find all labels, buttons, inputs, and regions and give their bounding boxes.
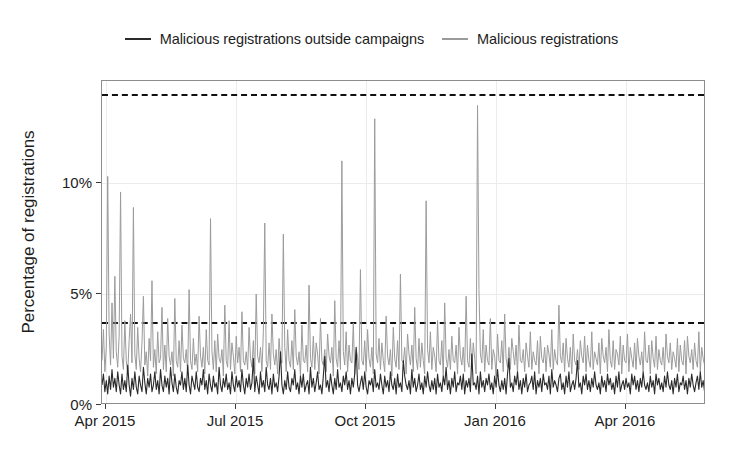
y-axis-title: Percentage of registrations [14,0,44,464]
x-tick-label-oct-2015: Oct 2015 [335,412,396,429]
x-tick-mark-0 [105,404,106,409]
y-tick-mark-0% [96,404,101,405]
series-line-malicious-registrations [102,105,705,376]
chart-legend: Malicious registrations outside campaign… [0,28,741,50]
legend-key-outside-campaigns [123,28,153,50]
legend-key-malicious-registrations [440,28,470,50]
series-plot-area [102,81,705,404]
x-tick-mark-4 [625,404,626,409]
y-tick-label-5%: 5% [40,285,92,302]
x-tick-label-jul-2015: Jul 2015 [207,412,264,429]
legend-label-outside-campaigns: Malicious registrations outside campaign… [160,31,424,47]
y-tick-label-10%: 10% [40,174,92,191]
x-tick-mark-2 [365,404,366,409]
x-tick-label-apr-2015: Apr 2015 [75,412,136,429]
legend-entry-malicious-registrations: Malicious registrations [440,28,618,50]
legend-label-malicious-registrations: Malicious registrations [477,31,618,47]
x-tick-label-jan-2016: Jan 2016 [464,412,526,429]
x-tick-label-apr-2016: Apr 2016 [595,412,656,429]
y-tick-label-0%: 0% [40,396,92,413]
legend-entry-outside-campaigns: Malicious registrations outside campaign… [123,28,424,50]
chart-figure: Malicious registrations outside campaign… [0,0,741,464]
x-tick-mark-3 [495,404,496,409]
x-tick-mark-1 [235,404,236,409]
plot-panel [101,80,705,404]
y-axis-title-text: Percentage of registrations [19,130,39,333]
